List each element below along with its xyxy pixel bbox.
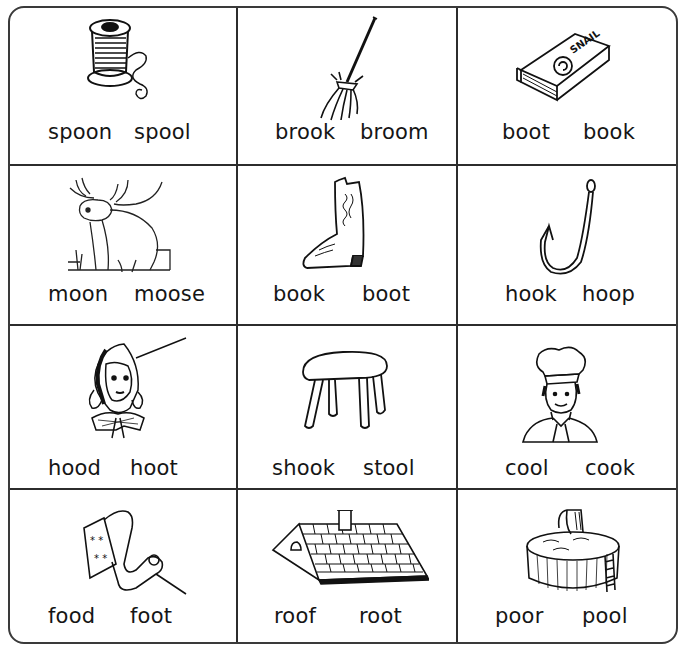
word-option[interactable]: spoon <box>48 122 112 143</box>
cell-broom: brook broom <box>237 8 456 164</box>
word-option[interactable]: cook <box>585 458 635 479</box>
word-option[interactable]: book <box>583 122 635 143</box>
cell-spool: spoon spool <box>10 8 236 164</box>
word-option[interactable]: cool <box>505 458 549 479</box>
girl-in-hood-icon <box>76 334 188 446</box>
svg-text:* *: * * <box>90 535 103 546</box>
cowboy-boot-icon <box>301 172 377 276</box>
cell-book: SNAIL boot book <box>457 8 676 164</box>
word-option[interactable]: hook <box>505 284 557 305</box>
cell-cook: cool cook <box>457 326 676 488</box>
worksheet-grid: spoon spool brook broom <box>8 6 678 644</box>
word-option[interactable]: boot <box>362 284 410 305</box>
word-option[interactable]: hoop <box>582 284 635 305</box>
word-option[interactable]: boot <box>502 122 550 143</box>
swimming-pool-icon <box>523 504 623 600</box>
broom-icon <box>307 14 387 124</box>
chef-cook-icon <box>517 344 601 444</box>
word-option[interactable]: hoot <box>130 458 178 479</box>
word-option[interactable]: spool <box>134 122 191 143</box>
word-option[interactable]: moose <box>134 284 205 305</box>
word-option[interactable]: poor <box>495 606 543 627</box>
cell-moose: moon moose <box>10 166 236 324</box>
cell-stool: shook stool <box>237 326 456 488</box>
cell-boot: book boot <box>237 166 456 324</box>
svg-text:* *: * * <box>94 553 107 564</box>
word-option[interactable]: book <box>273 284 325 305</box>
word-option[interactable]: roof <box>274 606 316 627</box>
word-option[interactable]: foot <box>130 606 172 627</box>
cell-hook: hook hoop <box>457 166 676 324</box>
word-option[interactable]: food <box>48 606 95 627</box>
roof-icon <box>269 510 429 588</box>
fish-hook-icon <box>537 178 603 278</box>
cell-pool: poor pool <box>457 490 676 642</box>
word-option[interactable]: moon <box>48 284 108 305</box>
word-option[interactable]: brook <box>275 122 335 143</box>
cell-roof: roof root <box>237 490 456 642</box>
cell-hood: hood hoot <box>10 326 236 488</box>
word-option[interactable]: root <box>359 606 402 627</box>
word-option[interactable]: hood <box>48 458 101 479</box>
word-option[interactable]: shook <box>272 458 335 479</box>
foot-icon: * * * * <box>76 504 188 600</box>
stool-icon <box>299 348 393 432</box>
spool-of-thread-icon <box>78 14 170 104</box>
cell-foot: * * * * food foot <box>10 490 236 642</box>
book-icon: SNAIL <box>513 20 615 104</box>
moose-icon <box>66 176 172 278</box>
word-option[interactable]: pool <box>582 606 628 627</box>
word-option[interactable]: broom <box>360 122 429 143</box>
word-option[interactable]: stool <box>363 458 415 479</box>
